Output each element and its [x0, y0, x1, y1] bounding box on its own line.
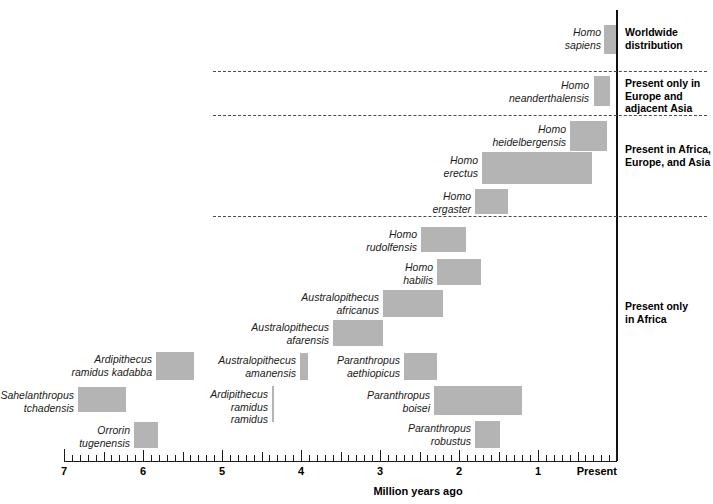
distribution-group-divider [213, 115, 707, 116]
taxon-label: Australopithecus africanus [301, 291, 379, 316]
axis-minor-tick [585, 455, 586, 461]
axis-minor-tick [246, 455, 247, 461]
axis-major-tick [222, 450, 223, 461]
range-bar [570, 121, 607, 151]
axis-minor-tick [230, 455, 231, 461]
hominin-timeline-figure: Homo sapiensHomo neanderthalensisHomo he… [0, 0, 713, 504]
axis-minor-tick [372, 455, 373, 461]
taxon-label: Orrorin tugenensis [79, 424, 130, 449]
axis-major-tick [617, 450, 618, 461]
axis-minor-tick [254, 455, 255, 461]
axis-minor-tick [269, 455, 270, 461]
axis-minor-tick [325, 455, 326, 461]
axis-tick-label: 1 [535, 465, 541, 477]
axis-minor-tick [293, 455, 294, 461]
distribution-caption: Worldwide distribution [625, 26, 683, 51]
axis-minor-tick [214, 455, 215, 461]
range-bar [475, 421, 500, 448]
axis-minor-tick [593, 455, 594, 461]
taxon-label: Ardipithecus ramidus kadabba [71, 353, 152, 378]
axis-major-tick [380, 450, 381, 461]
axis-minor-tick [111, 455, 112, 461]
axis-minor-tick [364, 455, 365, 461]
axis-minor-tick [522, 455, 523, 461]
axis-minor-tick [309, 455, 310, 461]
axis-minor-tick [159, 455, 160, 461]
x-axis-title: Million years ago [373, 485, 462, 497]
range-bar [594, 76, 610, 106]
axis-minor-tick [491, 455, 492, 461]
range-bar [134, 422, 158, 448]
range-bar [272, 386, 274, 422]
taxon-label: Paranthropus aethiopicus [337, 354, 400, 379]
axis-minor-tick [348, 455, 349, 461]
axis-minor-tick [483, 455, 484, 461]
axis-minor-tick [262, 452, 263, 461]
axis-minor-tick [530, 455, 531, 461]
axis-major-tick [143, 450, 144, 461]
axis-minor-tick [151, 455, 152, 461]
axis-minor-tick [183, 452, 184, 461]
axis-minor-tick [96, 455, 97, 461]
axis-minor-tick [609, 455, 610, 461]
axis-minor-tick [562, 455, 563, 461]
taxon-label: Homo habilis [403, 261, 433, 286]
axis-minor-tick [514, 455, 515, 461]
axis-minor-tick [277, 455, 278, 461]
axis-minor-tick [475, 455, 476, 461]
distribution-caption: Present only in Europe and adjacent Asia [625, 77, 700, 115]
axis-minor-tick [341, 452, 342, 461]
range-bar [421, 227, 466, 252]
axis-tick-label: 7 [61, 465, 67, 477]
axis-minor-tick [206, 455, 207, 461]
axis-minor-tick [578, 452, 579, 461]
axis-minor-tick [198, 455, 199, 461]
axis-minor-tick [554, 455, 555, 461]
axis-minor-tick [135, 455, 136, 461]
taxon-label: Homo erectus [444, 154, 478, 179]
taxon-label: Homo rudolfensis [366, 228, 417, 253]
axis-minor-tick [396, 455, 397, 461]
axis-minor-tick [356, 455, 357, 461]
axis-minor-tick [333, 455, 334, 461]
axis-tick-label: 3 [377, 465, 383, 477]
distribution-caption: Present only in Africa [625, 300, 688, 325]
taxon-label: Paranthropus robustus [408, 422, 471, 447]
taxon-label: Sahelanthropus tchadensis [0, 389, 74, 414]
axis-minor-tick [285, 455, 286, 461]
taxon-label: Paranthropus boisei [367, 389, 430, 414]
axis-minor-tick [72, 455, 73, 461]
axis-tick-label: 4 [298, 465, 304, 477]
axis-tick-label: Present [577, 465, 617, 477]
taxon-label: Australopithecus amanensis [218, 354, 296, 379]
present-reference-line [616, 10, 618, 461]
range-bar [383, 290, 443, 317]
taxon-label: Homo sapiens [565, 26, 601, 51]
timeline-plot-area: Homo sapiensHomo neanderthalensisHomo he… [0, 0, 713, 504]
taxon-label: Homo heidelbergensis [492, 123, 566, 148]
axis-minor-tick [427, 455, 428, 461]
range-bar [300, 353, 308, 380]
taxon-label: Homo ergaster [432, 190, 471, 215]
range-bar [475, 189, 508, 214]
range-bar [482, 152, 592, 184]
axis-minor-tick [412, 455, 413, 461]
axis-tick-label: 5 [219, 465, 225, 477]
taxon-label: Australopithecus afarensis [251, 321, 329, 346]
axis-minor-tick [88, 455, 89, 461]
axis-minor-tick [570, 455, 571, 461]
axis-minor-tick [238, 455, 239, 461]
axis-minor-tick [388, 455, 389, 461]
axis-minor-tick [467, 455, 468, 461]
x-axis-line [64, 461, 617, 462]
axis-minor-tick [190, 455, 191, 461]
axis-major-tick [538, 450, 539, 461]
range-bar [434, 386, 522, 415]
axis-minor-tick [601, 455, 602, 461]
axis-minor-tick [80, 455, 81, 461]
axis-minor-tick [167, 455, 168, 461]
axis-minor-tick [127, 455, 128, 461]
axis-minor-tick [506, 455, 507, 461]
axis-tick-label: 6 [140, 465, 146, 477]
axis-tick-label: 2 [456, 465, 462, 477]
